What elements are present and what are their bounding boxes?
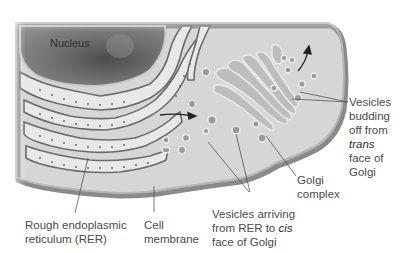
label-vesicles-budding-line5: face of [349, 151, 391, 165]
label-vesicles-budding-line6: Golgi [349, 165, 391, 179]
label-cell-membrane-line1: Cell [144, 218, 199, 232]
label-vesicles-budding-line3: off from [349, 123, 391, 137]
cell-diagram: Nucleus Rough endoplasmic reticulum (RER… [0, 0, 406, 253]
label-vesicles-budding: Vesicles budding off from trans face of … [349, 95, 391, 179]
label-vesicles-arriving-line3: face of Golgi [212, 235, 295, 249]
label-vesicles-arriving: Vesicles arriving from RER to cis face o… [212, 207, 295, 249]
label-rer-line1: Rough endoplasmic [25, 218, 127, 232]
label-rer-line2: reticulum (RER) [25, 232, 127, 246]
label-vesicles-arriving-line2: from RER to cis [212, 221, 295, 235]
label-cell-membrane-line2: membrane [144, 232, 199, 246]
label-vesicles-arriving-line1: Vesicles arriving [212, 207, 295, 221]
label-vesicles-budding-line2: budding [349, 109, 391, 123]
label-cis-italic: cis [278, 222, 292, 234]
label-trans-italic: trans [349, 138, 375, 150]
label-cell-membrane: Cell membrane [144, 218, 199, 246]
label-nucleus: Nucleus [50, 36, 90, 50]
label-golgi-line2: complex [297, 187, 340, 201]
label-golgi-complex: Golgi complex [297, 173, 340, 201]
label-golgi-line1: Golgi [297, 173, 340, 187]
label-rer: Rough endoplasmic reticulum (RER) [25, 218, 127, 246]
label-vesicles-budding-line1: Vesicles [349, 95, 391, 109]
label-nucleus-text: Nucleus [50, 37, 90, 49]
